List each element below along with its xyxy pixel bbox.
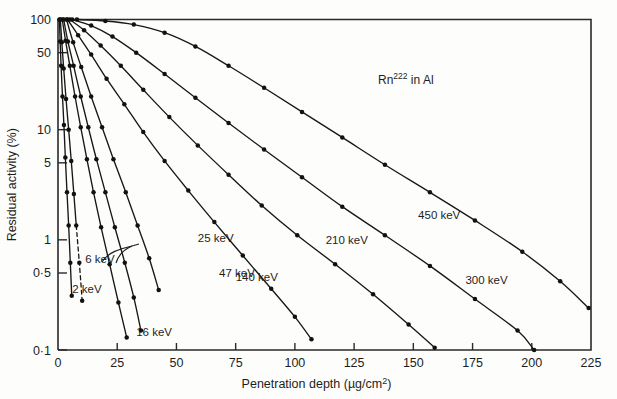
series-curve <box>70 20 435 348</box>
data-point <box>62 123 67 128</box>
x-tick-label: 225 <box>581 356 602 370</box>
data-point <box>69 159 74 164</box>
data-point <box>124 335 129 340</box>
y-tick-label: 0·5 <box>33 266 51 280</box>
curves-layer <box>59 20 588 351</box>
data-point <box>66 223 71 228</box>
data-point <box>515 328 520 333</box>
data-point <box>132 295 137 300</box>
data-point <box>66 39 71 44</box>
data-point <box>383 233 388 238</box>
x-tick-label: 150 <box>403 356 424 370</box>
data-point <box>262 86 267 91</box>
data-point <box>156 288 161 293</box>
data-point <box>300 110 305 115</box>
data-point <box>241 253 246 257</box>
plot-frame <box>58 20 591 351</box>
data-point <box>111 157 116 162</box>
data-point <box>104 76 109 81</box>
x-tick-label: 125 <box>344 356 365 370</box>
y-axis-title: Residual activity (%) <box>5 128 19 241</box>
data-point <box>262 147 267 152</box>
data-point <box>75 17 80 22</box>
data-points-layer <box>57 17 591 352</box>
data-point <box>212 220 217 225</box>
data-point <box>124 190 129 195</box>
data-point <box>61 66 66 71</box>
data-point <box>89 52 94 57</box>
data-point <box>162 159 167 164</box>
data-point <box>77 260 82 265</box>
series-label-2-kev: 2 keV <box>72 283 102 295</box>
data-point <box>193 95 198 100</box>
series-curve <box>77 20 589 309</box>
data-point <box>141 88 146 93</box>
series-label-140-kev: 140 keV <box>236 271 279 283</box>
data-point <box>428 190 433 195</box>
series-curve <box>72 20 534 351</box>
data-point <box>132 22 137 27</box>
data-point <box>226 64 231 69</box>
data-point <box>103 190 108 195</box>
y-tick-label: 0·1 <box>33 344 51 358</box>
data-point <box>473 218 478 223</box>
curve-labels-layer: 2 keV6 keV16 keV25 keV47 keV140 keV210 k… <box>72 209 508 338</box>
annotation-mass-number: 222 <box>393 71 407 81</box>
data-point <box>86 125 91 130</box>
data-point <box>78 125 83 130</box>
series-label-210-kev: 210 keV <box>326 234 369 246</box>
data-point <box>293 315 298 320</box>
figure-container: 02550751001251501752002251005010510·50·1… <box>0 0 617 399</box>
data-point <box>167 115 172 120</box>
y-tick-label: 50 <box>37 46 51 60</box>
data-point <box>123 260 128 265</box>
series-label-25-kev: 25 keV <box>198 232 234 244</box>
data-point <box>141 130 146 135</box>
data-point <box>98 43 103 48</box>
data-point <box>309 337 314 342</box>
data-point <box>340 135 345 140</box>
y-tick-label: 1 <box>44 233 51 247</box>
x-tick-label: 25 <box>110 356 124 370</box>
data-point <box>64 97 69 102</box>
annotation-layer: Rn222 in Al <box>378 71 434 87</box>
data-point <box>72 192 77 197</box>
data-point <box>226 172 231 177</box>
x-tick-label: 100 <box>284 356 305 370</box>
data-point <box>74 223 79 228</box>
penetration-depth-chart: 02550751001251501752002251005010510·50·1… <box>0 0 617 399</box>
y-tick-label: 5 <box>44 156 51 170</box>
data-point <box>99 225 104 230</box>
data-point <box>89 94 94 99</box>
data-point <box>371 292 376 297</box>
data-point <box>432 345 437 350</box>
series-label-6-kev: 6 keV <box>85 253 115 265</box>
data-point <box>116 300 121 305</box>
data-point <box>79 65 84 70</box>
data-point <box>113 225 118 230</box>
data-point <box>473 297 478 302</box>
data-point <box>85 157 90 162</box>
data-point <box>196 143 201 148</box>
data-point <box>68 260 73 265</box>
annotation-species: Rn <box>378 73 393 87</box>
data-point <box>193 44 198 49</box>
data-point <box>110 34 115 39</box>
data-point <box>162 72 167 77</box>
data-point <box>340 204 345 209</box>
data-point <box>103 19 108 24</box>
data-point <box>63 155 68 160</box>
data-point <box>119 64 124 69</box>
data-point <box>269 286 274 291</box>
series-label-16-kev: 16 keV <box>136 326 172 338</box>
series-label-300-kev: 300 keV <box>465 274 508 286</box>
x-tick-label: 200 <box>521 356 542 370</box>
data-point <box>135 223 140 228</box>
series-curve <box>67 20 159 291</box>
x-axis-title: Penetration depth (µg/cm2) <box>242 376 392 391</box>
data-point <box>91 190 96 195</box>
data-point <box>100 125 105 130</box>
data-point <box>66 127 71 132</box>
data-point <box>73 94 78 99</box>
data-point <box>147 256 152 261</box>
